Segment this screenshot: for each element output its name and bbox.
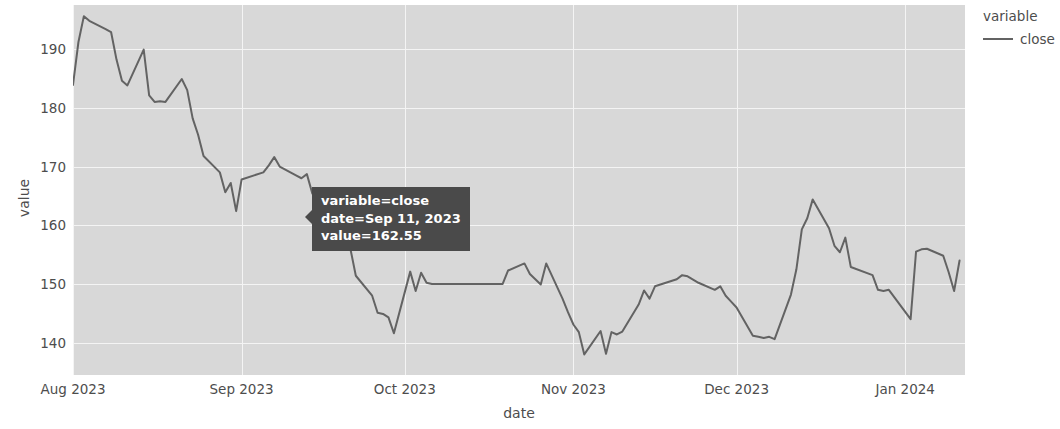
hover-tooltip: variable=close date=Sep 11, 2023 value=1…: [312, 187, 470, 251]
line-path-close: [73, 16, 960, 354]
tooltip-arrow-icon: [305, 210, 312, 224]
x-tick-label: Jan 2024: [875, 381, 934, 397]
y-axis-label: value: [16, 158, 32, 238]
legend: variable close: [983, 8, 1055, 47]
y-tick-label: 160: [0, 217, 66, 233]
y-tick-label: 170: [0, 159, 66, 175]
y-tick-label: 190: [0, 41, 66, 57]
plot-area[interactable]: [73, 5, 965, 375]
x-tick-label: Oct 2023: [374, 381, 436, 397]
chart-figure: 140150160170180190 Aug 2023Sep 2023Oct 2…: [0, 0, 1060, 429]
x-axis-label: date: [73, 405, 965, 421]
x-tick-label: Aug 2023: [40, 381, 105, 397]
legend-label-close: close: [1020, 31, 1055, 47]
series-line-close: [73, 5, 965, 375]
x-tick-label: Nov 2023: [541, 381, 606, 397]
y-tick-label: 180: [0, 100, 66, 116]
tooltip-value: value=162.55: [321, 227, 461, 245]
legend-title: variable: [983, 8, 1055, 24]
y-tick-label: 150: [0, 276, 66, 292]
legend-swatch-close: [983, 38, 1013, 40]
legend-item-close[interactable]: close: [983, 31, 1055, 47]
tooltip-variable: variable=close: [321, 192, 461, 210]
tooltip-date: date=Sep 11, 2023: [321, 210, 461, 228]
x-tick-label: Sep 2023: [210, 381, 274, 397]
x-tick-label: Dec 2023: [704, 381, 769, 397]
y-tick-label: 140: [0, 335, 66, 351]
